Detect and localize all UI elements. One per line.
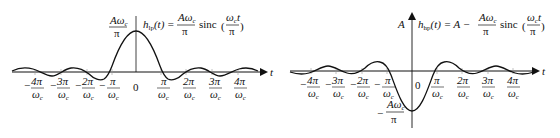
svg-text:ωc: ωc xyxy=(83,88,95,102)
svg-text:Aωc: Aωc xyxy=(109,14,129,28)
y-axis-label: A xyxy=(397,18,405,30)
svg-text:ωc: ωc xyxy=(32,88,44,102)
svg-text:π: π xyxy=(434,74,440,86)
svg-text:2π: 2π xyxy=(457,74,469,86)
svg-text:π: π xyxy=(483,25,489,37)
svg-text:3π: 3π xyxy=(331,74,344,86)
svg-text:−: − xyxy=(75,79,81,91)
svg-text:3π: 3π xyxy=(56,75,69,87)
svg-text:0: 0 xyxy=(415,79,421,91)
svg-text:ωc: ωc xyxy=(458,87,470,101)
svg-text:Aωc: Aωc xyxy=(177,11,197,25)
svg-text:π: π xyxy=(110,75,116,87)
min-label: − Aωc π xyxy=(377,98,406,125)
svg-text:2π: 2π xyxy=(183,75,195,87)
svg-text:ωc: ωc xyxy=(58,88,70,102)
svg-text:ωc: ωc xyxy=(184,88,196,102)
x-axis-label: t xyxy=(270,66,274,78)
svg-text:ωc: ωc xyxy=(308,87,320,101)
svg-text:ωc: ωc xyxy=(210,88,222,102)
svg-text:ωc: ωc xyxy=(158,88,170,102)
svg-text:ωc: ωc xyxy=(235,88,247,102)
svg-text:2π: 2π xyxy=(357,74,369,86)
svg-text:ωc: ωc xyxy=(358,87,370,101)
svg-text:Aωc: Aωc xyxy=(386,98,406,112)
svg-text:−: − xyxy=(377,107,383,119)
svg-text:(: ( xyxy=(221,20,225,33)
svg-text:−: − xyxy=(374,78,380,90)
svg-text:3π: 3π xyxy=(208,75,221,87)
x-tick-labels: − 4π ωc − 3π ωc − 2π ωc − π ωc 0 π ωc 2π… xyxy=(300,74,520,101)
highpass-formula: hhp(t) = A − Aωc π sinc ( ωct π ) xyxy=(418,11,545,37)
svg-text:Aωc: Aωc xyxy=(478,11,498,25)
svg-text:3π: 3π xyxy=(481,74,494,86)
svg-text:π: π xyxy=(161,75,167,87)
svg-text:0: 0 xyxy=(133,81,139,93)
svg-text:4π: 4π xyxy=(31,75,43,87)
x-tick-labels: − 4π ωc − 3π ωc − 2π ωc − π ωc 0 π ωc xyxy=(24,75,247,102)
svg-text:ωc: ωc xyxy=(383,87,395,101)
svg-text:−: − xyxy=(50,79,56,91)
lowpass-plot: t Aωc π hlp(t) = Aωc π sinc ( ωct xyxy=(12,11,274,102)
svg-text:4π: 4π xyxy=(234,75,246,87)
svg-text:ωct: ωct xyxy=(527,11,542,25)
svg-text:−: − xyxy=(350,78,356,90)
peak-label: Aωc π xyxy=(109,14,129,39)
figure-canvas: t Aωc π hlp(t) = Aωc π sinc ( ωct xyxy=(0,0,560,138)
svg-text:−: − xyxy=(24,79,30,91)
svg-text:ωc: ωc xyxy=(432,87,444,101)
svg-text:ωc: ωc xyxy=(508,87,520,101)
svg-text:−: − xyxy=(99,79,105,91)
svg-text:π: π xyxy=(385,74,391,86)
svg-text:ωc: ωc xyxy=(333,87,345,101)
svg-text:4π: 4π xyxy=(307,74,319,86)
highpass-plot: t A − Aωc π hhp(t) = A − Aωc π sinc ( xyxy=(290,11,546,128)
svg-text:π: π xyxy=(530,25,536,37)
svg-text:π: π xyxy=(114,27,120,39)
svg-text:π: π xyxy=(182,25,188,37)
svg-text:π: π xyxy=(391,113,397,125)
svg-text:hhp(t) = A −: hhp(t) = A − xyxy=(418,18,470,32)
svg-text:π: π xyxy=(229,25,235,37)
svg-text:): ) xyxy=(240,20,244,33)
svg-text:(: ( xyxy=(522,20,526,33)
svg-text:−: − xyxy=(300,78,306,90)
x-axis-label: t xyxy=(542,65,546,77)
svg-text:−: − xyxy=(325,78,331,90)
svg-text:): ) xyxy=(541,20,545,33)
lowpass-formula: hlp(t) = Aωc π sinc ( ωct π ) xyxy=(143,11,244,37)
svg-text:hlp(t) =: hlp(t) = xyxy=(143,18,175,32)
svg-text:ωc: ωc xyxy=(108,88,120,102)
svg-text:sinc: sinc xyxy=(199,18,217,30)
svg-text:sinc: sinc xyxy=(500,18,518,30)
svg-text:ωct: ωct xyxy=(226,11,241,25)
svg-text:ωc: ωc xyxy=(483,87,495,101)
svg-text:4π: 4π xyxy=(507,74,519,86)
svg-text:2π: 2π xyxy=(82,75,94,87)
